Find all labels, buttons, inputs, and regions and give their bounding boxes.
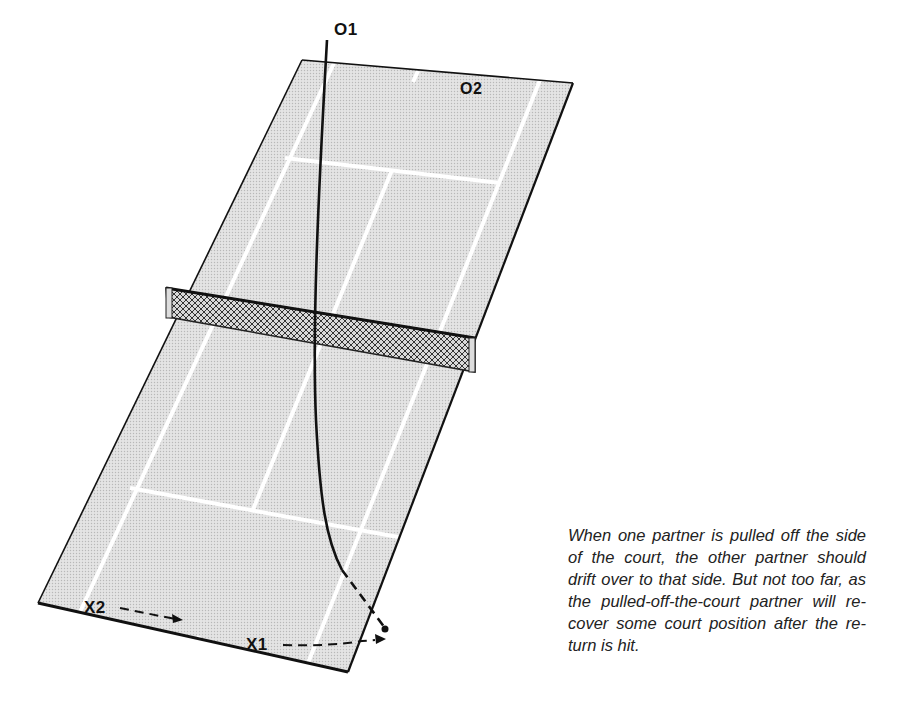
court-surface (38, 60, 573, 672)
player-o2-label: O2 (460, 80, 482, 98)
figure-caption: When one partner is pulled off the side … (568, 524, 866, 656)
x1-arrowhead (375, 634, 386, 644)
ball-landing-dot (382, 626, 389, 633)
player-x1-label: X1 (246, 635, 268, 655)
player-x2-label: X2 (84, 598, 106, 618)
player-o1-label: O1 (334, 20, 358, 40)
